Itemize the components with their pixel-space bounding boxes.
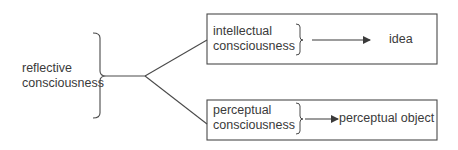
intellectual-brace bbox=[296, 24, 303, 55]
root-label-line2: consciousness bbox=[22, 76, 104, 91]
perceptual-object-label: perceptual object bbox=[339, 111, 434, 126]
perceptual-label-line1: perceptual bbox=[213, 103, 295, 118]
root-label-line1: reflective bbox=[22, 61, 104, 76]
perceptual-brace bbox=[296, 103, 303, 134]
fork-line-upper bbox=[145, 40, 207, 76]
perceptual-label-line2: consciousness bbox=[213, 118, 295, 133]
intellectual-consciousness-label: intellectual consciousness bbox=[213, 24, 295, 54]
root-label: reflective consciousness bbox=[22, 61, 104, 91]
intellectual-label-line2: consciousness bbox=[213, 39, 295, 54]
fork-line-lower bbox=[145, 76, 207, 124]
idea-label: idea bbox=[389, 32, 413, 47]
intellectual-label-line1: intellectual bbox=[213, 24, 295, 39]
perceptual-consciousness-label: perceptual consciousness bbox=[213, 103, 295, 133]
